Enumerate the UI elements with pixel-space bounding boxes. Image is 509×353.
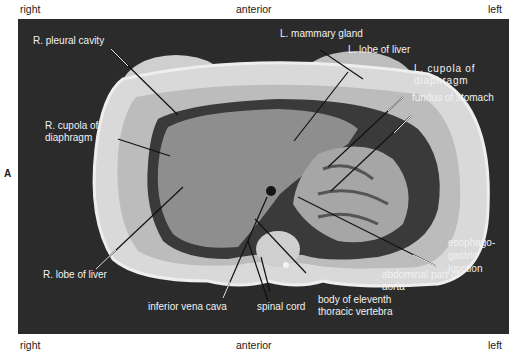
orientation-top-center: anterior <box>236 3 272 15</box>
orientation-bottom-right: left <box>488 339 502 351</box>
label-r-cupola-line1: R. cupola of <box>45 120 98 132</box>
label-l-cupola-line1: L. cupola of <box>414 63 475 75</box>
label-body-vertebra-line1: body of eleventh <box>318 294 391 306</box>
label-l-mammary-gland: L. mammary gland <box>280 28 363 40</box>
label-r-pleural-cavity: R. pleural cavity <box>33 35 104 47</box>
label-abdominal-aorta-line2: aorta <box>382 281 405 293</box>
label-fundus-of-stomach: fundus of stomach <box>412 92 494 104</box>
label-inferior-vena-cava: inferior vena cava <box>148 301 227 313</box>
panel-letter: A <box>4 168 11 179</box>
orientation-top-right: left <box>488 3 502 15</box>
label-esophago-line3: junction <box>448 263 482 275</box>
orientation-bottom-left: right <box>20 339 40 351</box>
label-body-vertebra-line2: thoracic vertebra <box>318 306 392 318</box>
label-spinal-cord: spinal cord <box>257 301 305 313</box>
label-l-lobe-of-liver: L. lobe of liver <box>348 44 410 56</box>
label-esophago-line1: esophago- <box>448 237 495 249</box>
label-r-cupola-line2: diaphragm <box>45 132 92 144</box>
orientation-bottom-center: anterior <box>236 339 272 351</box>
cross-section-photo: L. mammary gland L. lobe of liver L. cup… <box>18 19 509 334</box>
label-l-cupola-line2: diaphragm <box>414 75 468 87</box>
label-r-lobe-of-liver: R. lobe of liver <box>43 269 107 281</box>
label-esophago-line2: gastric <box>448 250 477 262</box>
orientation-top-left: right <box>20 3 40 15</box>
